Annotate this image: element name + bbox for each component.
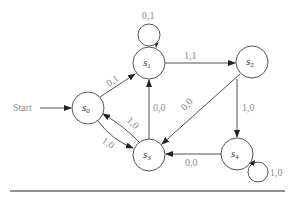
edge-label: 1,1 — [184, 50, 197, 61]
edge-label: 1,0 — [125, 114, 142, 130]
edge-s3-s1: 0,0 — [149, 80, 166, 139]
edge-label: 0,1 — [104, 73, 120, 89]
edge-label: 0,1 — [142, 10, 155, 21]
edge-s4-s3: 0,0 — [166, 154, 221, 168]
edge-label: 0,0 — [178, 96, 195, 113]
edge-s0-s1: 0,1 — [100, 73, 135, 97]
start-label: Start — [13, 102, 32, 113]
edge-s1-s1: 0,1 — [138, 10, 160, 48]
edge-s4-s4: 1,0 — [248, 160, 283, 182]
edge-s2-s4: 1,0 — [237, 79, 255, 137]
start-arrow: Start — [13, 102, 71, 113]
state-s2: s2 — [236, 46, 268, 78]
edge-s2-s3: 0,0 — [162, 74, 240, 144]
edge-s1-s2: 1,1 — [165, 50, 235, 63]
edge-label: 1,0 — [270, 167, 283, 178]
state-s4: s4 — [221, 138, 253, 170]
edge-label: 0,0 — [153, 102, 166, 113]
state-diagram: Start 0,1 1,0 1,0 0,1 1,1 0,0 1,0 0,0 — [0, 0, 301, 200]
edge-label: 1,0 — [242, 102, 255, 113]
edge-label: 0,0 — [185, 157, 198, 168]
state-s0: s0 — [72, 92, 104, 124]
state-s1: s1 — [133, 47, 165, 79]
state-s3: s3 — [133, 139, 165, 171]
